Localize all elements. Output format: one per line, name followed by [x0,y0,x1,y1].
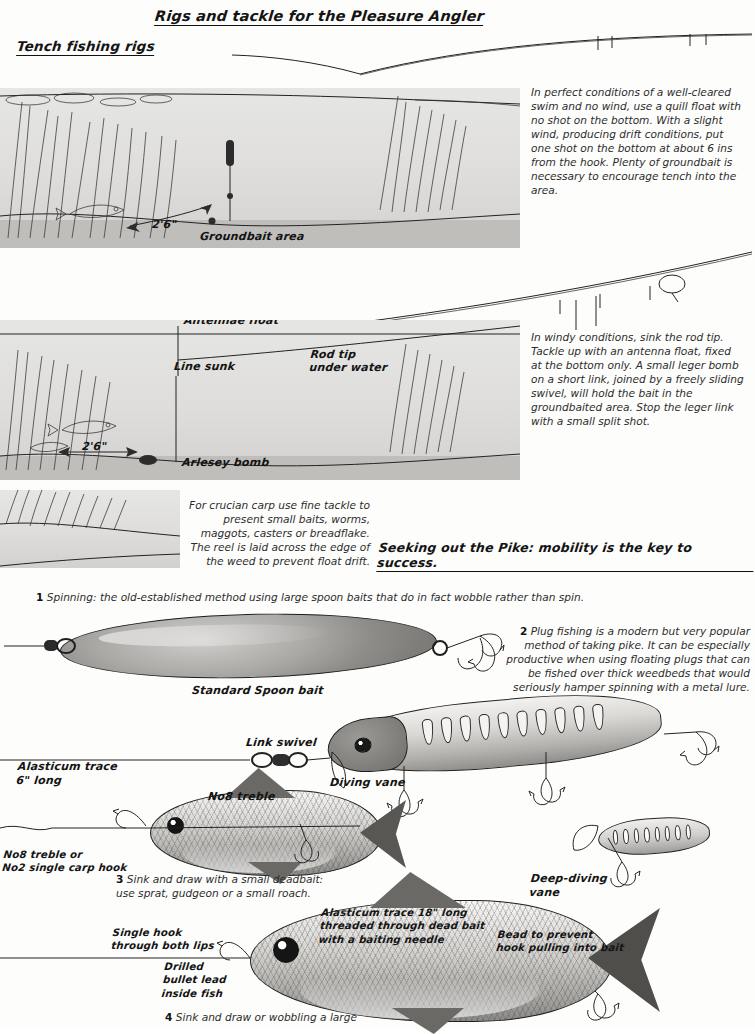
pike-method-2-text: Plug fishing is a modern but very popula… [506,625,750,693]
spoon-bait-lure [59,609,438,683]
single-hook-lips [217,941,250,960]
label-drilled-bullet-lead: Drilled bullet lead inside fish [161,960,229,1000]
diagram-tench-quill-float: 2'6" Groundbait area [0,88,520,248]
label-line-sunk: Line sunk [173,360,236,373]
label-standard-spoon-bait: Standard Spoon bait [191,684,324,697]
pike-method-1: 1 Spinning: the old-established method u… [36,591,696,605]
section-title-tench: Tench fishing rigs [16,38,156,56]
label-no8-treble: No8 treble [207,790,276,803]
treble-hook-icon [447,634,504,671]
diagram-tench-antenna-leger: Antennae float Line sunk Rod tip under w… [0,320,520,480]
pike-method-1-number: 1 [36,591,43,603]
diagram-crucian-carp [0,490,180,568]
pike-method-3-text: Sink and draw with a small deadbait: use… [116,873,323,899]
pike-method-3: 3 Sink and draw with a small deadbait: u… [116,873,331,901]
plug-dot-markings [612,824,691,845]
plug-treble-front [387,766,423,817]
mouth-hook-small [113,809,146,828]
description-crucian-carp-rig: For crucian carp use fine tackle to pres… [182,499,370,569]
floating-plug-lure [328,686,665,783]
label-single-hook-lips: Single hook through both lips [111,926,217,953]
deep-diving-vane-shape [573,825,598,850]
label-bead-prevent-hook: Bead to prevent hook pulling into bait [496,928,627,955]
label-no8-treble-or-no2: No8 treble or No2 single carp hook [2,848,130,875]
plug-head [325,715,409,776]
dorsal-fin-big [370,872,466,908]
label-alasticum-trace-6in: Alasticum trace 6" long [15,760,118,789]
fish-eye-big [273,937,299,963]
page-title: Rigs and tackle for the Pleasure Angler [154,8,485,26]
plug-tail-treble [664,732,719,765]
pike-method-3-number: 3 [116,873,123,885]
deep-diving-plug-lure [597,814,711,858]
description-quill-float-rig: In perfect conditions of a well-cleared … [531,86,745,198]
label-diving-vane: Diving vane [329,776,406,789]
label-rod-tip-under-water: Rod tip under water [309,348,390,374]
label-depth-2: 2'6" [81,440,108,453]
scene-3-strokes [0,490,180,568]
plug-eye-icon [354,737,372,753]
label-depth-1: 2'6" [151,218,178,231]
fish-eye-small [167,817,184,834]
label-link-swivel: Link swivel [245,736,317,749]
pike-method-2-number: 2 [520,625,527,637]
plug-scale-markings [421,702,623,745]
link-swivel-icon [252,753,330,767]
pike-method-4-number: 4 [165,1011,172,1023]
label-alasticum-trace-18in: Alasticum trace 18" long threaded throug… [318,906,487,946]
tail-fin-big [588,908,660,1012]
rod-line-1 [360,34,752,74]
pike-method-4-text: Sink and draw or wobbling a large [176,1011,357,1023]
pike-method-1-text: Spinning: the old-established method usi… [47,591,584,603]
description-antenna-leger-rig: In windy conditions, sink the rod tip. T… [531,331,745,429]
label-arlesey-bomb: Arlesey bomb [181,456,270,469]
scene-1-strokes [0,88,520,248]
section-title-pike: Seeking out the Pike: mobility is the ke… [376,540,755,572]
pike-method-4: 4 Sink and draw or wobbling a large [165,1011,495,1025]
label-antennae-float: Antennae float [183,320,279,327]
pike-method-2: 2 Plug fishing is a modern but very popu… [502,625,750,695]
label-groundbait-area: Groundbait area [199,230,305,243]
label-deep-diving-vane: Deep-diving vane [528,872,608,901]
